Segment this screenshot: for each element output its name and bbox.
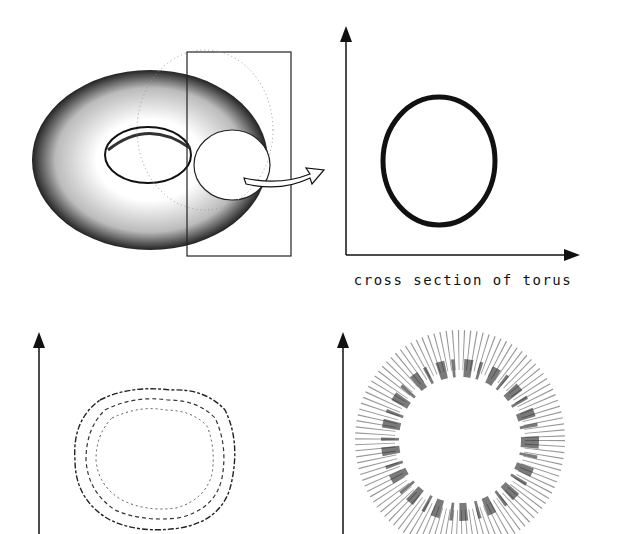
wavy-ring-inner (96, 409, 213, 509)
diagram-canvas (0, 0, 618, 534)
scatter-strands (390, 368, 530, 512)
cross-section-ring (383, 97, 495, 225)
scattered-ring-plot (337, 332, 545, 534)
cross-section-caption: cross section of torus (333, 272, 593, 288)
x-axis-arrowhead (564, 249, 580, 261)
cut-circle (194, 130, 270, 200)
torus-figure (32, 50, 324, 256)
wavy-ring-outer (75, 389, 235, 530)
y-axis-arrowhead (340, 26, 352, 42)
y-axis-arrowhead (33, 332, 45, 348)
perturbed-ring-plot (33, 332, 235, 534)
torus-hole (105, 127, 191, 183)
cross-section-plot (340, 26, 580, 261)
y-axis-arrowhead (337, 332, 349, 348)
wavy-ring-mid (86, 399, 224, 519)
